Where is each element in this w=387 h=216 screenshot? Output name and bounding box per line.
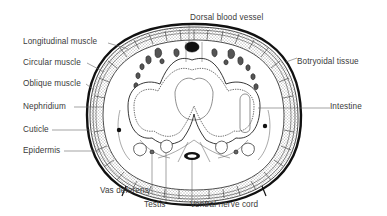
label-dorsal-blood-vessel: Dorsal blood vessel bbox=[190, 13, 263, 23]
label-longitudinal-muscle: Longitudinal muscle bbox=[23, 37, 97, 47]
label-nephridium: Nephridium bbox=[23, 102, 66, 112]
dorsal-blood-vessel bbox=[185, 42, 199, 52]
nephridium-right bbox=[263, 124, 267, 128]
nephridium-left bbox=[117, 128, 121, 132]
label-epidermis: Epidermis bbox=[23, 146, 60, 156]
label-intestine: Intestine bbox=[330, 102, 362, 112]
earthworm-cross-section-diagram: Dorsal blood vessel Longitudinal muscle … bbox=[0, 0, 387, 216]
label-oblique-muscle: Oblique muscle bbox=[23, 79, 81, 89]
label-ventral-nerve-cord: Ventral nerve cord bbox=[190, 200, 258, 210]
ventral-nerve-cord bbox=[184, 152, 200, 160]
label-vas-deferens: Vas deferens bbox=[100, 186, 149, 196]
label-circular-muscle: Circular muscle bbox=[23, 58, 81, 68]
label-testis: Testis bbox=[144, 200, 166, 210]
label-cuticle: Cuticle bbox=[23, 125, 49, 135]
label-botryoidal-tissue: Botryoidal tissue bbox=[297, 57, 359, 67]
